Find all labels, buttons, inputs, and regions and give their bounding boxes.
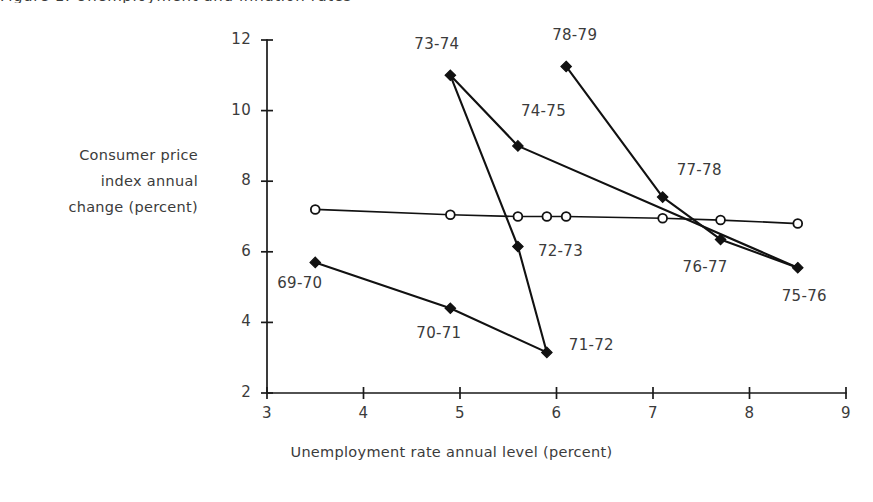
axes-group	[261, 40, 846, 399]
data-point-marker-open	[793, 219, 802, 228]
data-point-label: 76-77	[683, 258, 728, 276]
data-point-marker-filled	[513, 241, 523, 251]
data-point-marker-filled	[310, 257, 320, 267]
x-axis-label: Unemployment rate annual level (percent)	[0, 444, 873, 460]
x-tick-label: 4	[349, 404, 379, 422]
data-point-label: 77-78	[677, 161, 722, 179]
y-tick-label: 2	[217, 383, 251, 401]
data-point-label: 73-74	[414, 35, 459, 53]
data-point-marker-filled	[542, 347, 552, 357]
x-tick-label: 8	[735, 404, 765, 422]
y-axis-label-line-2: index annual	[8, 168, 198, 194]
data-point-marker-open	[446, 210, 455, 219]
x-tick-label: 7	[638, 404, 668, 422]
data-point-label: 72-73	[538, 242, 583, 260]
x-tick-label: 6	[542, 404, 572, 422]
data-point-marker-filled	[793, 262, 803, 272]
y-tick-label: 12	[217, 30, 251, 48]
data-point-marker-open	[311, 205, 320, 214]
data-point-marker-open	[562, 212, 571, 221]
x-tick-label: 5	[445, 404, 475, 422]
data-point-marker-open	[514, 212, 523, 221]
data-point-marker-open	[658, 214, 667, 223]
x-tick-label: 9	[831, 404, 861, 422]
y-axis-label-line-1: Consumer price	[8, 142, 198, 168]
y-tick-label: 6	[217, 242, 251, 260]
data-point-label: 74-75	[521, 102, 566, 120]
y-axis-label-line-3: change (percent)	[8, 194, 198, 220]
phillips-curve-figure: Figure 1. Unemployment and inflation rat…	[0, 0, 873, 502]
y-tick-label: 10	[217, 101, 251, 119]
x-tick-label: 3	[252, 404, 282, 422]
figure-title-cropped: Figure 1. Unemployment and inflation rat…	[0, 0, 560, 3]
y-axis-label: Consumer price index annual change (perc…	[8, 142, 198, 220]
data-point-label: 78-79	[552, 26, 597, 44]
y-tick-label: 8	[217, 171, 251, 189]
data-point-label: 69-70	[277, 274, 322, 292]
data-point-marker-open	[542, 212, 551, 221]
data-point-label: 75-76	[782, 287, 827, 305]
data-point-label: 70-71	[416, 324, 461, 342]
data-point-marker-filled	[445, 303, 455, 313]
plot-canvas	[0, 0, 873, 502]
data-point-marker-open	[716, 216, 725, 225]
y-tick-label: 4	[217, 312, 251, 330]
data-point-label: 71-72	[569, 336, 614, 354]
